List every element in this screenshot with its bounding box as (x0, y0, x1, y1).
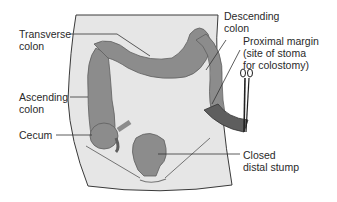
label-proximal-margin: Proximal margin (site of stoma for colos… (243, 35, 319, 71)
label-transverse-colon: Transverse colon (19, 28, 71, 52)
label-closed-distal-stump: Closed distal stump (243, 149, 299, 173)
colostomy-diagram: Transverse colon Ascending colon Cecum D… (0, 0, 337, 202)
label-cecum: Cecum (19, 129, 52, 141)
cecum-shape (90, 123, 118, 149)
label-descending-colon: Descending colon (224, 10, 279, 34)
label-ascending-colon: Ascending colon (19, 91, 68, 115)
